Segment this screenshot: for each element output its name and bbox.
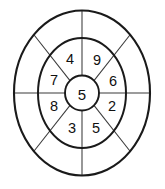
middle-cell-right-upper: 6 [109,73,117,89]
middle-cell-left-upper: 7 [50,72,58,88]
figure-canvas: 4 9 6 2 5 3 8 7 5 [0,0,165,189]
ring-number-wheel: 4 9 6 2 5 3 8 7 5 [0,0,165,189]
middle-cell-bottom-left: 3 [68,120,76,136]
center-cell: 5 [78,86,86,103]
middle-cell-right-lower: 2 [108,98,116,114]
middle-cell-left-lower: 8 [50,98,58,114]
middle-cell-bottom-right: 5 [92,120,100,136]
middle-cell-top-right: 9 [93,52,101,68]
middle-cell-top-left: 4 [66,51,74,67]
